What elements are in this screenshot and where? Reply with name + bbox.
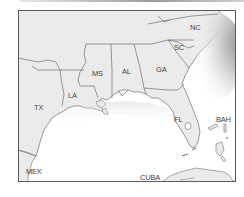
label-nc: NC: [190, 23, 201, 32]
map-frame: NC SC GA AL MS LA TX FL BAH MEX CUBA: [18, 10, 236, 182]
label-mex: MEX: [26, 167, 42, 176]
label-ga: GA: [156, 65, 167, 74]
label-bah: BAH: [216, 115, 231, 124]
label-fl: FL: [174, 115, 182, 124]
top-rule: [20, 0, 244, 2]
lake-okeechobee: [185, 123, 191, 130]
label-sc: SC: [174, 43, 185, 52]
label-cuba: CUBA: [140, 173, 160, 182]
label-al: AL: [122, 67, 131, 76]
southeast-us-map: NC SC GA AL MS LA TX FL BAH MEX CUBA: [18, 10, 236, 182]
label-tx: TX: [34, 103, 43, 112]
label-ms: MS: [92, 69, 103, 78]
label-la: LA: [68, 91, 77, 100]
